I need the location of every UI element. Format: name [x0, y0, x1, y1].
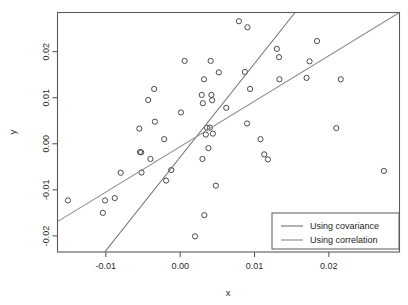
data-point	[213, 183, 218, 188]
x-tick-label: 0.01	[246, 261, 264, 271]
y-axis-title: y	[7, 129, 18, 134]
data-point	[209, 92, 214, 97]
y-tick-label: 0.01	[41, 89, 51, 107]
legend-label: Using covariance	[310, 221, 379, 231]
data-point	[102, 198, 107, 203]
x-tick-label: -0.01	[96, 261, 117, 271]
x-axis-ticks: -0.010.000.010.02	[96, 252, 338, 271]
data-point	[244, 121, 249, 126]
x-axis-title: x	[226, 287, 231, 298]
data-point	[258, 137, 263, 142]
data-point	[65, 198, 70, 203]
data-point	[381, 168, 386, 173]
data-point	[148, 156, 153, 161]
data-point	[152, 119, 157, 124]
data-point	[216, 70, 221, 75]
data-point	[206, 146, 211, 151]
data-point	[199, 92, 204, 97]
y-tick-label: 0.00	[41, 135, 51, 153]
plot-canvas: -0.010.000.010.02 0.020.010.00-0.01-0.02…	[0, 0, 408, 305]
data-point	[200, 156, 205, 161]
data-point	[338, 77, 343, 82]
data-point	[201, 77, 206, 82]
data-point	[262, 152, 267, 157]
data-point	[192, 234, 197, 239]
data-point	[236, 19, 241, 24]
data-point	[304, 75, 309, 80]
y-tick-label: -0.02	[41, 226, 51, 247]
data-point	[245, 25, 250, 30]
data-point	[200, 101, 205, 106]
data-point	[210, 131, 215, 136]
data-point	[146, 97, 151, 102]
data-point	[112, 196, 117, 201]
data-point	[182, 58, 187, 63]
data-point	[202, 213, 207, 218]
data-point	[277, 77, 282, 82]
x-tick-label: 0.00	[171, 261, 189, 271]
data-point	[152, 86, 157, 91]
data-point	[203, 132, 208, 137]
data-point	[163, 178, 168, 183]
data-point	[247, 86, 252, 91]
data-point	[276, 55, 281, 60]
y-axis-ticks: 0.020.010.00-0.01-0.02	[41, 43, 58, 246]
regression-line	[58, 13, 400, 222]
data-point	[137, 126, 142, 131]
data-point	[210, 98, 215, 103]
data-point	[334, 126, 339, 131]
legend-label: Using correlation	[310, 235, 378, 245]
data-point	[178, 110, 183, 115]
data-point	[100, 210, 105, 215]
regression-line	[105, 13, 295, 253]
y-tick-label: 0.02	[41, 43, 51, 61]
data-point	[274, 46, 279, 51]
data-point	[162, 137, 167, 142]
data-point	[118, 170, 123, 175]
x-tick-label: 0.02	[320, 261, 338, 271]
legend: Using covarianceUsing correlation	[272, 213, 399, 249]
data-point	[208, 58, 213, 63]
scatter-plot-figure: -0.010.000.010.02 0.020.010.00-0.01-0.02…	[0, 0, 408, 305]
y-tick-label: -0.01	[41, 180, 51, 201]
data-points	[65, 19, 386, 239]
data-point	[307, 59, 312, 64]
data-point	[265, 157, 270, 162]
data-point	[224, 105, 229, 110]
data-point	[314, 38, 319, 43]
